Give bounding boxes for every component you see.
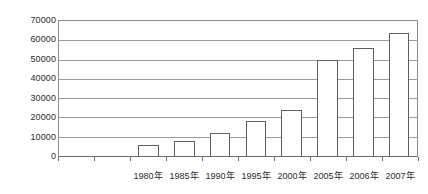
- bar-slot: [381, 21, 417, 156]
- bar: [353, 48, 374, 156]
- y-tick-label: 50000: [0, 55, 56, 64]
- bar: [138, 145, 159, 156]
- x-axis: 1980年1985年1990年1995年2000年2005年2006年2007年: [58, 168, 418, 184]
- x-tick: [166, 157, 167, 161]
- bar-slot: [59, 21, 95, 156]
- x-axis-label: 1995年: [238, 171, 274, 182]
- bar-slot: [310, 21, 346, 156]
- bar-slot: [131, 21, 167, 156]
- x-tick: [310, 157, 311, 161]
- bar-slot: [274, 21, 310, 156]
- x-axis-label: 1985年: [166, 171, 202, 182]
- x-tick: [382, 157, 383, 161]
- x-axis-label: 2007年: [382, 171, 418, 182]
- x-tick: [238, 157, 239, 161]
- x-axis-label: 1980年: [130, 171, 166, 182]
- x-tick: [94, 157, 95, 161]
- y-axis: 70000 60000 50000 40000 30000 20000 1000…: [0, 0, 56, 194]
- bar: [317, 60, 338, 156]
- y-tick-label: 20000: [0, 113, 56, 122]
- y-tick-label: 0: [0, 152, 56, 161]
- x-axis-ticks: [58, 157, 418, 161]
- x-tick: [58, 157, 59, 161]
- x-tick: [346, 157, 347, 161]
- y-tick-label: 60000: [0, 35, 56, 44]
- bar-slot: [95, 21, 131, 156]
- x-tick: [418, 157, 419, 161]
- bars-layer: [59, 21, 417, 156]
- bar-slot: [202, 21, 238, 156]
- x-tick: [274, 157, 275, 161]
- x-axis-label: 1990年: [202, 171, 238, 182]
- bar: [389, 33, 410, 156]
- y-tick-label: 10000: [0, 133, 56, 142]
- bar: [281, 110, 302, 156]
- y-tick-label: 70000: [0, 16, 56, 25]
- x-axis-label: 2000年: [274, 171, 310, 182]
- bar-slot: [345, 21, 381, 156]
- x-tick: [202, 157, 203, 161]
- bar: [174, 141, 195, 156]
- x-axis-label: 2006年: [346, 171, 382, 182]
- x-tick: [130, 157, 131, 161]
- bar-chart: 70000 60000 50000 40000 30000 20000 1000…: [0, 0, 428, 194]
- bar-slot: [238, 21, 274, 156]
- y-tick-label: 30000: [0, 94, 56, 103]
- y-tick-label: 40000: [0, 74, 56, 83]
- plot-area: [58, 20, 418, 157]
- bar: [210, 133, 231, 156]
- bar: [246, 121, 267, 156]
- x-axis-label: 2005年: [310, 171, 346, 182]
- bar-slot: [166, 21, 202, 156]
